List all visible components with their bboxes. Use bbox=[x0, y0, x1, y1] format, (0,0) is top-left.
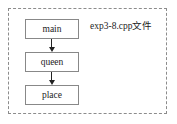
function-box-label: main bbox=[43, 24, 62, 34]
function-box-queen[interactable]: queen bbox=[25, 52, 79, 72]
diagram-canvas: exp3-8.cpp文件 main queen place bbox=[0, 0, 177, 124]
function-box-label: place bbox=[42, 90, 62, 100]
file-label: exp3-8.cpp文件 bbox=[90, 20, 152, 32]
call-arrow-queen-to-place bbox=[51, 72, 53, 85]
function-box-main[interactable]: main bbox=[25, 19, 79, 39]
function-box-label: queen bbox=[41, 57, 64, 67]
call-arrow-main-to-queen bbox=[51, 39, 53, 52]
function-box-place[interactable]: place bbox=[25, 85, 79, 105]
